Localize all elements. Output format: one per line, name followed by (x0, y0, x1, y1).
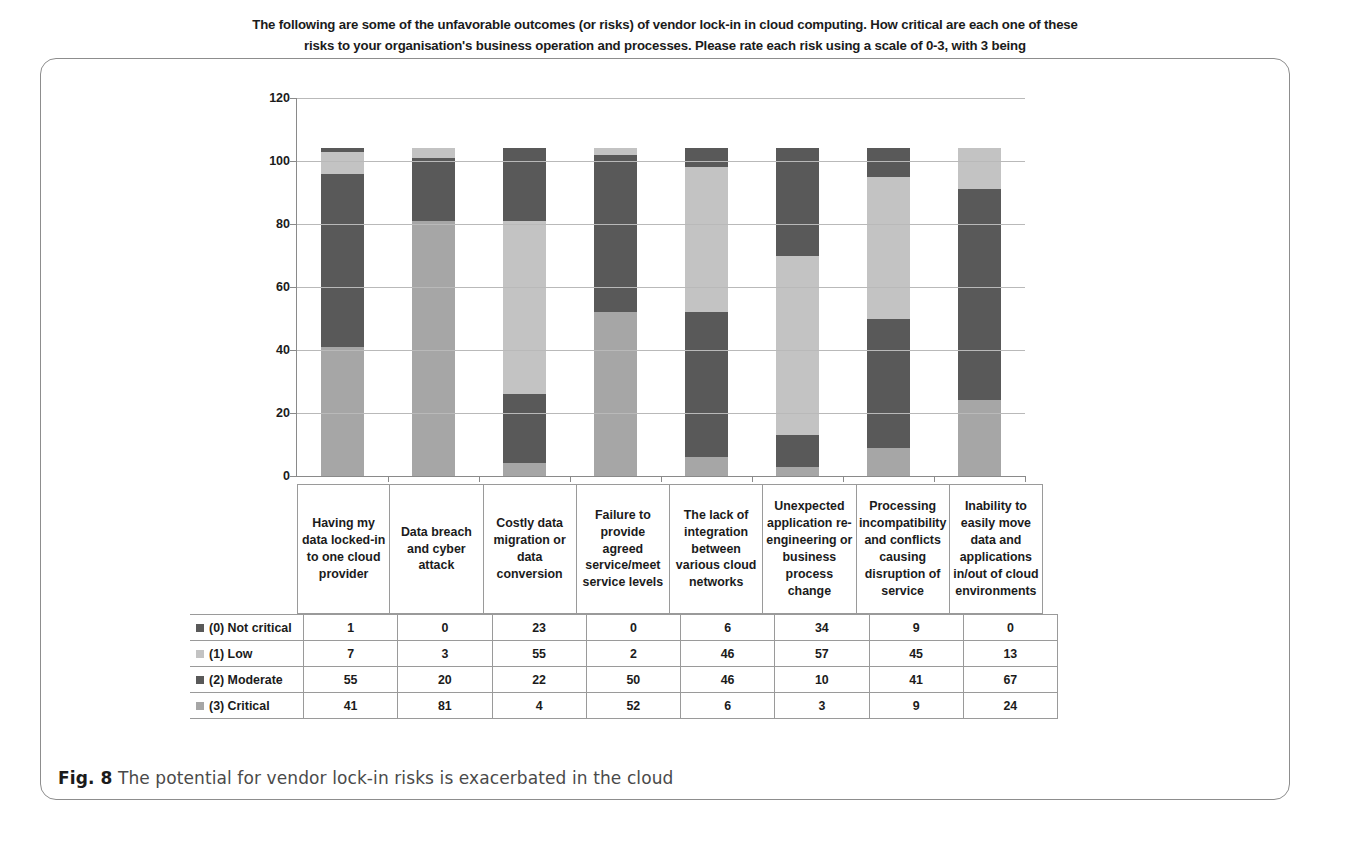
bar-segment[interactable] (958, 400, 1002, 476)
category-header-cell: Costly data migration or data conversion (484, 484, 577, 614)
bar-segment[interactable] (594, 312, 638, 476)
bar-segment[interactable] (958, 189, 1002, 400)
table-cell-value: 22 (492, 667, 586, 693)
bar-segment[interactable] (776, 256, 820, 436)
figure-caption-label: Fig. 8 (58, 768, 112, 788)
table-cell-value: 2 (586, 641, 680, 667)
table-cell-value: 0 (398, 615, 492, 641)
table-cell-value: 20 (398, 667, 492, 693)
bar-segment[interactable] (321, 174, 365, 347)
table-cell-value: 46 (681, 641, 775, 667)
bar-segment[interactable] (867, 319, 911, 448)
category-header-cell: Having my data locked-in to one cloud pr… (297, 484, 390, 614)
bar-segment[interactable] (321, 148, 365, 151)
y-tick-label-120: 120 (244, 91, 290, 105)
legend-row-label: (1) Low (190, 641, 304, 667)
bar-segment[interactable] (503, 463, 547, 476)
y-tick-mark-40 (290, 350, 297, 351)
bar-segment[interactable] (503, 221, 547, 394)
table-cell-value: 9 (869, 615, 963, 641)
x-tick-mark (752, 476, 753, 482)
legend-label-text: (2) Moderate (209, 673, 283, 687)
table-cell-value: 6 (681, 693, 775, 719)
table-cell-value: 50 (586, 667, 680, 693)
y-tick-label-80: 80 (244, 217, 290, 231)
y-tick-mark-20 (290, 413, 297, 414)
bar-segment[interactable] (776, 467, 820, 476)
bar-segment[interactable] (503, 394, 547, 463)
legend-label-text: (3) Critical (209, 699, 270, 713)
table-cell-value: 45 (869, 641, 963, 667)
legend-label-text: (0) Not critical (209, 621, 292, 635)
table-cell-value: 57 (775, 641, 869, 667)
legend-swatch-icon (196, 624, 204, 632)
bar-segment[interactable] (412, 148, 456, 157)
y-tick-mark-80 (290, 224, 297, 225)
legend-label-text: (1) Low (209, 647, 252, 661)
table-cell-value: 23 (492, 615, 586, 641)
bar-segment[interactable] (685, 148, 729, 167)
x-tick-mark (388, 476, 389, 482)
category-header-cell: The lack of integration between various … (670, 484, 763, 614)
table-cell-value: 3 (775, 693, 869, 719)
table-cell-value: 41 (304, 693, 398, 719)
figure-page: The following are some of the unfavorabl… (0, 0, 1354, 841)
bar-segment[interactable] (958, 148, 1002, 189)
bar-segment[interactable] (321, 152, 365, 174)
gridline-60 (297, 287, 1025, 288)
bar-segment[interactable] (867, 448, 911, 476)
table-row: (3) Critical418145263924 (190, 693, 1058, 719)
table-cell-value: 3 (398, 641, 492, 667)
x-tick-mark (570, 476, 571, 482)
legend-row-label: (2) Moderate (190, 667, 304, 693)
y-tick-mark-0 (290, 476, 297, 477)
bar-segment[interactable] (412, 221, 456, 476)
table-cell-value: 7 (304, 641, 398, 667)
gridline-20 (297, 413, 1025, 414)
bar-segment[interactable] (685, 457, 729, 476)
table-row: (1) Low7355246574513 (190, 641, 1058, 667)
table-cell-value: 41 (869, 667, 963, 693)
bar-segment[interactable] (867, 177, 911, 319)
bar-segment[interactable] (685, 312, 729, 457)
category-header-cell: Unexpected application re-engineering or… (763, 484, 856, 614)
bar-segment[interactable] (685, 167, 729, 312)
table-cell-value: 0 (586, 615, 680, 641)
y-axis-tick-labels: 020406080100120 (244, 98, 290, 476)
y-tick-label-100: 100 (244, 154, 290, 168)
bar-segment[interactable] (594, 155, 638, 313)
table-cell-value: 13 (963, 641, 1057, 667)
category-header-cell: Failure to provide agreed service/meet s… (577, 484, 670, 614)
table-cell-value: 0 (963, 615, 1057, 641)
bar-segment[interactable] (776, 435, 820, 467)
bar-segment[interactable] (776, 148, 820, 255)
y-tick-label-0: 0 (244, 469, 290, 483)
legend-row-label: (3) Critical (190, 693, 304, 719)
y-tick-mark-120 (290, 98, 297, 99)
category-header-cell: Inability to easily move data and applic… (950, 484, 1043, 614)
gridline-40 (297, 350, 1025, 351)
bar-segment[interactable] (867, 148, 911, 176)
table-cell-value: 10 (775, 667, 869, 693)
gridline-80 (297, 224, 1025, 225)
bar-segment[interactable] (412, 158, 456, 221)
category-header-strip: Having my data locked-in to one cloud pr… (297, 484, 1043, 614)
y-tick-label-60: 60 (244, 280, 290, 294)
bar-segment[interactable] (321, 347, 365, 476)
x-tick-mark (934, 476, 935, 482)
table-cell-value: 55 (492, 641, 586, 667)
gridline-120 (297, 98, 1025, 99)
x-tick-mark (661, 476, 662, 482)
table-cell-value: 9 (869, 693, 963, 719)
bar-segment[interactable] (594, 148, 638, 154)
chart-data-table: (0) Not critical1023063490(1) Low7355246… (190, 614, 1058, 719)
category-header-cell: Data breach and cyber attack (390, 484, 483, 614)
table-row: (0) Not critical1023063490 (190, 615, 1058, 641)
table-cell-value: 52 (586, 693, 680, 719)
x-tick-mark (1025, 476, 1026, 482)
table-cell-value: 81 (398, 693, 492, 719)
y-tick-mark-60 (290, 287, 297, 288)
bar-segment[interactable] (503, 148, 547, 220)
plot-area (297, 98, 1025, 476)
legend-swatch-icon (196, 702, 204, 710)
